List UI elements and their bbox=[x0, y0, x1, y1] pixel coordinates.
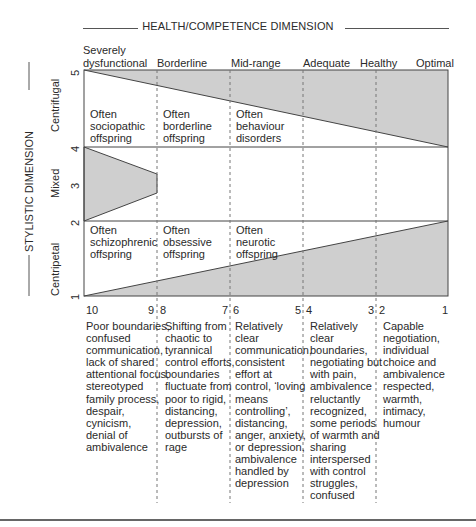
description-adequate: Relativelyclearboundaries, negotiating b… bbox=[310, 320, 382, 501]
description-mid-range: Relativelyclearcommunication, consistent… bbox=[235, 320, 312, 489]
description-optimal: Capablenegotiation,individual choice and… bbox=[383, 320, 445, 429]
zone-label-mixed: Mixed bbox=[49, 169, 61, 198]
scale-7: 7 bbox=[222, 304, 228, 316]
scale-10: 10 bbox=[86, 304, 98, 316]
y-tick-3: 3 bbox=[69, 183, 81, 189]
mixed-shade bbox=[84, 147, 157, 221]
scale-8: 8 bbox=[160, 304, 166, 316]
bottom-rule bbox=[0, 519, 476, 521]
y-tick-1: 1 bbox=[69, 294, 81, 300]
region-neurotic: Often neurotic offspring bbox=[236, 224, 278, 261]
description-borderline: Shifting fromchaotic totyrannical contro… bbox=[165, 320, 235, 453]
scale-9: 9 bbox=[148, 304, 154, 316]
y-tick-4: 4 bbox=[69, 146, 81, 152]
region-obsessive: Often obsessive offspring bbox=[163, 224, 212, 261]
region-behaviour-disorders: Often behaviour disorders bbox=[236, 108, 284, 145]
description-severely-dysfunctional: Poor boundaries,confusedcommunication, l… bbox=[86, 320, 170, 453]
scale-5: 5 bbox=[295, 304, 301, 316]
side-title: STYLISTIC DIMENSION bbox=[23, 131, 35, 252]
region-schizophrenic: Often schizophrenic offspring bbox=[90, 224, 157, 261]
scale-1: 1 bbox=[442, 304, 448, 316]
scale-6: 6 bbox=[233, 304, 239, 316]
scale-4: 4 bbox=[306, 304, 312, 316]
scale-3: 3 bbox=[368, 304, 374, 316]
y-tick-5: 5 bbox=[69, 70, 81, 76]
y-tick-2: 2 bbox=[69, 220, 81, 226]
scale-2: 2 bbox=[379, 304, 385, 316]
zone-label-centripetal: Centripetal bbox=[49, 243, 61, 296]
region-sociopathic: Often sociopathic offspring bbox=[90, 108, 145, 145]
region-borderline: Often borderline offspring bbox=[163, 108, 212, 145]
zone-label-centrifugal: Centrifugal bbox=[49, 79, 61, 132]
